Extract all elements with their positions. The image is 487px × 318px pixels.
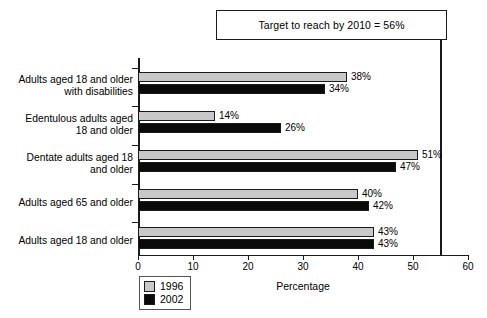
category-label: Adults aged 18 and older with disabiliti…	[3, 74, 133, 97]
legend-item-2002[interactable]: 2002	[144, 293, 183, 306]
x-axis-tick-label: 50	[407, 261, 418, 272]
category-label: Adults aged 65 and older	[3, 197, 133, 209]
x-axis-tick-label: 0	[135, 261, 141, 272]
bar-2002[interactable]	[138, 123, 281, 133]
category-label-group: Adults aged 18 and older with disabiliti…	[0, 0, 133, 318]
bar-1996[interactable]	[138, 72, 347, 82]
x-axis-tick	[468, 255, 469, 260]
bar-value-label: 26%	[285, 123, 305, 133]
bar-2002[interactable]	[138, 201, 369, 211]
x-axis-tick	[193, 255, 194, 260]
target-annotation-text: Target to reach by 2010 = 56%	[258, 19, 404, 31]
bar-value-label: 51%	[422, 150, 442, 160]
x-axis-tick-label: 60	[462, 261, 473, 272]
plot-area: 38% 34% 14% 26% 51% 47% 40% 42% 43% 43%	[138, 58, 468, 255]
x-axis-tick	[413, 255, 414, 260]
bar-value-label: 40%	[362, 189, 382, 199]
x-axis-tick-label: 40	[352, 261, 363, 272]
chart-legend[interactable]: 1996 2002	[139, 276, 191, 310]
x-axis-tick	[138, 255, 139, 260]
bar-value-label: 43%	[378, 227, 398, 237]
category-label: Edentulous adults aged 18 and older	[3, 113, 133, 136]
x-axis-tick	[303, 255, 304, 260]
bar-chart: Target to reach by 2010 = 56% Adults age…	[0, 0, 487, 318]
x-axis-tick-label: 30	[297, 261, 308, 272]
legend-label: 1996	[160, 281, 183, 292]
target-annotation-box: Target to reach by 2010 = 56%	[216, 10, 447, 40]
category-label: Adults aged 18 and older	[3, 235, 133, 247]
bar-2002[interactable]	[138, 162, 396, 172]
bar-1996[interactable]	[138, 227, 374, 237]
bar-2002[interactable]	[138, 239, 374, 249]
bar-value-label: 42%	[373, 201, 393, 211]
x-axis-tick	[248, 255, 249, 260]
legend-item-1996[interactable]: 1996	[144, 280, 183, 293]
bar-value-label: 34%	[329, 84, 349, 94]
bar-1996[interactable]	[138, 189, 358, 199]
bar-value-label: 14%	[219, 111, 239, 121]
x-axis-tick-label: 10	[187, 261, 198, 272]
bar-value-label: 47%	[400, 162, 420, 172]
bar-value-label: 38%	[351, 72, 371, 82]
bar-1996[interactable]	[138, 111, 215, 121]
legend-label: 2002	[160, 294, 183, 305]
x-axis-tick	[358, 255, 359, 260]
legend-swatch-icon	[144, 294, 155, 305]
bar-1996[interactable]	[138, 150, 418, 160]
category-label: Dentate adults aged 18 and older	[3, 152, 133, 175]
legend-swatch-icon	[144, 281, 155, 292]
bar-value-label: 43%	[378, 239, 398, 249]
bar-2002[interactable]	[138, 84, 325, 94]
x-axis-tick-label: 20	[242, 261, 253, 272]
